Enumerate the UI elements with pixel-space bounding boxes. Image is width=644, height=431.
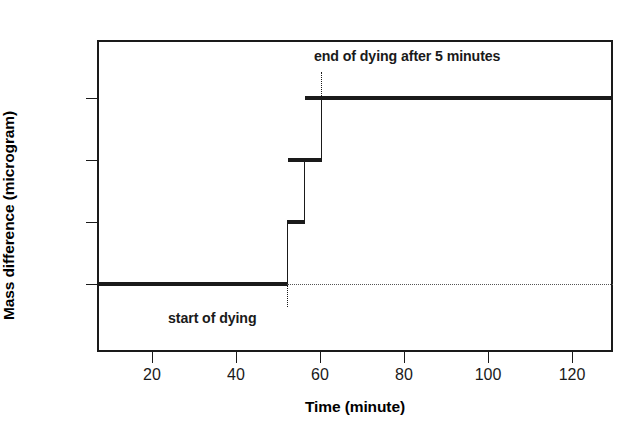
y-tick-mark-3 bbox=[86, 98, 97, 99]
y-tick-mark-1 bbox=[86, 222, 97, 223]
y-tick-mark-2 bbox=[86, 160, 97, 161]
y-axis-title: Mass difference (microgram) bbox=[0, 0, 40, 431]
trace-plateau-level-2 bbox=[288, 158, 322, 162]
x-tick-mark-100 bbox=[488, 352, 489, 363]
x-tick-mark-60 bbox=[320, 352, 321, 363]
trace-plateau-level-3 bbox=[305, 96, 613, 100]
x-tick-label-120: 120 bbox=[547, 367, 597, 383]
start-of-dying-label: start of dying bbox=[168, 310, 256, 326]
trace-riser-2-to-3 bbox=[321, 96, 322, 160]
trace-plateau-level-0 bbox=[99, 282, 287, 286]
x-tick-label-100: 100 bbox=[463, 367, 513, 383]
trace-riser-1-to-2 bbox=[304, 158, 305, 222]
plot-area bbox=[97, 40, 613, 352]
x-tick-mark-40 bbox=[236, 352, 237, 363]
trace-plateau-level-1 bbox=[287, 220, 305, 224]
start-of-dying-marker bbox=[287, 285, 288, 307]
x-tick-mark-20 bbox=[152, 352, 153, 363]
x-tick-mark-120 bbox=[572, 352, 573, 363]
x-tick-label-80: 80 bbox=[379, 367, 429, 383]
chart-figure: Mass difference (microgram) Time (minute… bbox=[0, 0, 644, 431]
x-tick-label-20: 20 bbox=[127, 367, 177, 383]
x-axis-title: Time (minute) bbox=[97, 398, 613, 416]
end-of-dying-label: end of dying after 5 minutes bbox=[314, 48, 500, 64]
y-tick-mark-0 bbox=[86, 284, 97, 285]
x-tick-label-60: 60 bbox=[295, 367, 345, 383]
x-tick-mark-80 bbox=[404, 352, 405, 363]
trace-riser-0-to-1 bbox=[287, 220, 288, 284]
zero-baseline-reference bbox=[287, 284, 613, 285]
x-tick-label-40: 40 bbox=[211, 367, 261, 383]
end-of-dying-marker bbox=[321, 72, 322, 96]
